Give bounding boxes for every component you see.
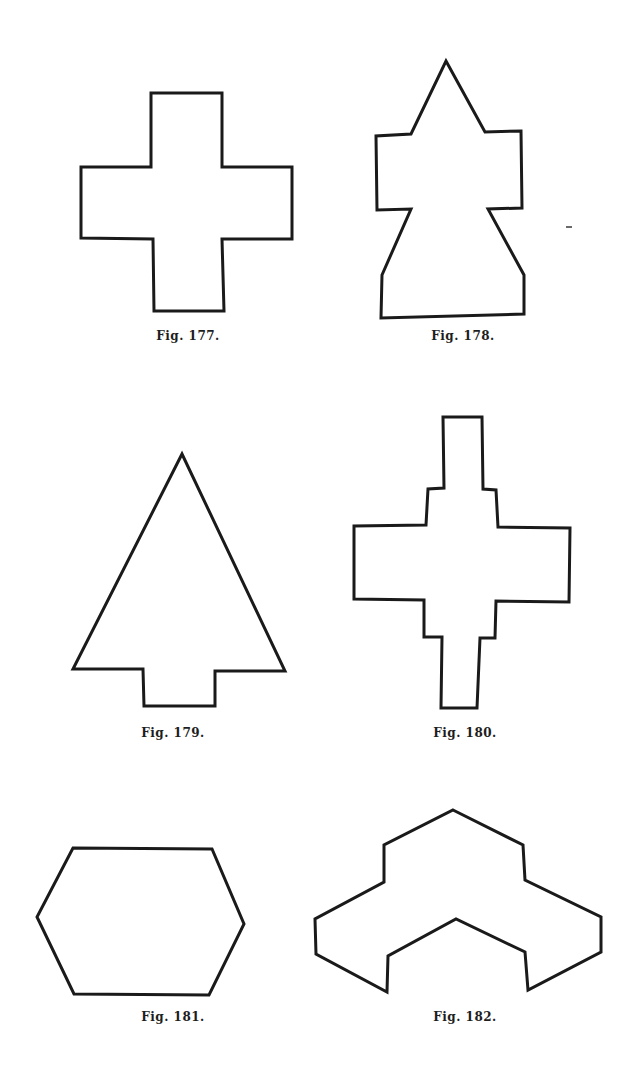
fig-180-stepped-cross xyxy=(354,417,570,708)
fig-179-tree-triangle xyxy=(73,454,285,706)
fig-182-caption: Fig. 182. xyxy=(433,1010,497,1024)
fig-178-arrow-bottle xyxy=(376,61,524,318)
fig-179-caption: Fig. 179. xyxy=(141,726,205,740)
figure-plate xyxy=(0,0,639,1089)
fig-181-caption: Fig. 181. xyxy=(141,1010,205,1024)
ink-speck xyxy=(566,226,572,228)
fig-178-caption: Fig. 178. xyxy=(431,329,495,343)
fig-181-hexagon xyxy=(37,848,244,995)
fig-182-chevron-block xyxy=(315,810,601,992)
fig-177-greek-cross xyxy=(81,93,292,311)
fig-180-caption: Fig. 180. xyxy=(433,726,497,740)
fig-177-caption: Fig. 177. xyxy=(156,329,220,343)
